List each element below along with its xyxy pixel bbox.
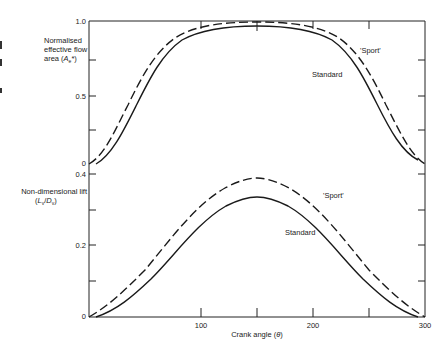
xtick-100: 100 (195, 321, 208, 330)
xtick-200: 200 (307, 321, 320, 330)
bottom-ytick-02: 0.2 (76, 241, 86, 250)
bottom-sport-annotation: 'Sport' (323, 191, 344, 200)
bottom-xticks (201, 308, 369, 317)
bottom-ytick-04: 0.4 (76, 170, 86, 179)
top-ytick-1: 1.0 (76, 17, 86, 26)
top-standard-annotation: Standard (312, 70, 342, 79)
xtick-300: 300 (419, 321, 432, 330)
bottom-standard-annotation: Standard (285, 228, 315, 237)
x-axis-title: Crank angle (θ) (231, 330, 283, 339)
top-sport-annotation: 'Sport' (360, 46, 381, 55)
bottom-standard-curve (96, 197, 418, 317)
adjacent-page-fragments (0, 41, 2, 93)
bottom-panel: 0.4 0.2 0 Non-dimensional lift (Lv/Dv) '… (21, 164, 431, 339)
top-ylabel-line2: effective flow (44, 45, 88, 54)
top-ylabel-line1: Normalised (44, 36, 82, 45)
bottom-right-yticks (418, 174, 425, 281)
top-ytick-05: 0.5 (76, 92, 86, 101)
top-left-yticks (89, 60, 96, 130)
top-sport-curve (89, 22, 425, 164)
crank-angle-figure: 1.0 0.5 0 Normalised effective flow area… (0, 0, 447, 353)
bottom-sport-curve (89, 178, 425, 317)
top-right-yticks (418, 60, 425, 130)
bottom-ytick-0: 0 (82, 312, 86, 321)
bottom-ylabel-line2: (Lv/Dv) (35, 196, 57, 206)
top-ytick-0: 0 (82, 159, 86, 168)
top-ylabel-line3: area (Ae*) (44, 54, 77, 64)
bottom-left-yticks (89, 174, 96, 281)
top-panel: 1.0 0.5 0 Normalised effective flow area… (44, 17, 425, 168)
bottom-ylabel-line1: Non-dimensional lift (21, 187, 88, 196)
